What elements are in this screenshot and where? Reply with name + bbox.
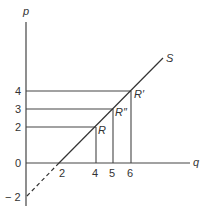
x-tick-6: 6 bbox=[127, 167, 133, 179]
x-tick-4: 4 bbox=[92, 167, 98, 179]
x-tick-2: 2 bbox=[59, 167, 65, 179]
point-R: R bbox=[98, 124, 106, 136]
y-tick-neg2: − 2 bbox=[5, 191, 21, 203]
x-tick-5: 5 bbox=[109, 167, 115, 179]
point-R-prime: R′ bbox=[134, 88, 145, 100]
y-tick-4: 4 bbox=[15, 85, 21, 97]
point-R-double-prime: R″ bbox=[115, 106, 128, 118]
supply-diagram: p q S R R″ R′ 4 3 2 0 − 2 2 4 5 6 bbox=[0, 0, 208, 214]
supply-curve-label: S bbox=[166, 52, 174, 64]
supply-curve bbox=[59, 58, 163, 163]
supply-curve-dashed bbox=[26, 163, 59, 197]
q-axis-label: q bbox=[193, 156, 200, 168]
y-tick-0: 0 bbox=[15, 157, 21, 169]
y-tick-3: 3 bbox=[15, 103, 21, 115]
p-axis-label: p bbox=[22, 5, 29, 17]
y-tick-2: 2 bbox=[15, 121, 21, 133]
